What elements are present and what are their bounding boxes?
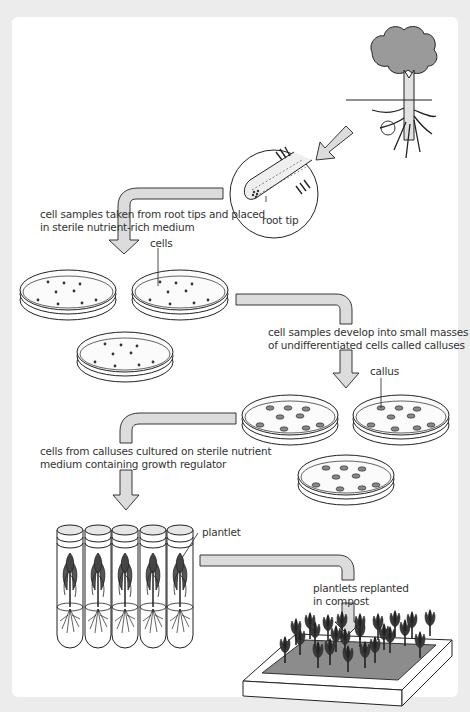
petri-dish-cells-2	[132, 270, 228, 320]
callus-label: callus	[370, 365, 399, 378]
petri-dish-cells-1	[20, 270, 116, 320]
root-tip-label: root tip	[262, 214, 299, 227]
test-tube-2	[85, 525, 111, 648]
step2-text: cell samples develop into small masses o…	[268, 326, 468, 352]
step4-text: plantlets replanted in compost	[313, 582, 409, 608]
petri-dish-cells-3	[77, 332, 173, 382]
petri-dish-callus-1	[242, 395, 338, 445]
cells-label: cells	[150, 237, 173, 250]
arrow-step4	[200, 555, 354, 580]
test-tube-5	[167, 525, 193, 648]
petri-dish-callus-2	[353, 395, 449, 445]
test-tube-4	[140, 525, 166, 648]
arrow-step3	[120, 413, 236, 443]
step3-text: cells from calluses cultured on sterile …	[40, 445, 271, 471]
test-tube-3	[112, 525, 138, 648]
test-tube-1	[57, 525, 83, 648]
arrow-step2	[236, 294, 352, 324]
arrow-tree-to-root	[316, 126, 353, 160]
tree-illustration	[346, 27, 437, 158]
step1-text: cell samples taken from root tips and pl…	[40, 208, 265, 234]
plantlet-label: plantlet	[202, 526, 241, 539]
petri-dish-callus-3	[298, 455, 394, 505]
